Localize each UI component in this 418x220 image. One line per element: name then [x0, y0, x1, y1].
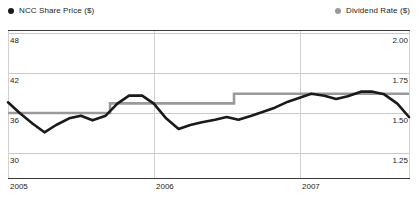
circle-marker-icon-dividend-rate: [335, 8, 341, 14]
legend-item-dividend-rate[interactable]: Dividend Rate ($): [335, 6, 410, 16]
y-axis-label-right-0: 2.00: [392, 36, 408, 45]
legend-item-share-price[interactable]: NCC Share Price ($): [8, 6, 94, 16]
y-axis-label-right-1: 1.75: [392, 76, 408, 85]
y-axis-label-left-3: 30: [10, 156, 19, 165]
legend-label-dividend-rate: Dividend Rate ($): [346, 6, 410, 16]
y-axis-label-right-2: 1.50: [392, 116, 408, 125]
y-axis-label-right-3: 1.25: [392, 156, 408, 165]
x-axis-label-2006: 2006: [156, 182, 174, 192]
stock-chart: NCC Share Price ($) Dividend Rate ($) 48…: [0, 0, 418, 220]
chart-legend: NCC Share Price ($) Dividend Rate ($): [0, 0, 418, 26]
series-plot: [8, 31, 410, 178]
legend-label-share-price: NCC Share Price ($): [19, 6, 94, 16]
circle-marker-icon-share-price: [8, 8, 14, 14]
y-axis-label-left-0: 48: [10, 36, 19, 45]
y-axis-label-left-2: 36: [10, 116, 19, 125]
x-axis-label-2007: 2007: [302, 182, 320, 192]
plot-area: [8, 31, 410, 178]
y-axis-label-left-1: 42: [10, 76, 19, 85]
x-axis-label-2005: 2005: [10, 182, 28, 192]
chart-bottom-rule: [8, 178, 410, 179]
